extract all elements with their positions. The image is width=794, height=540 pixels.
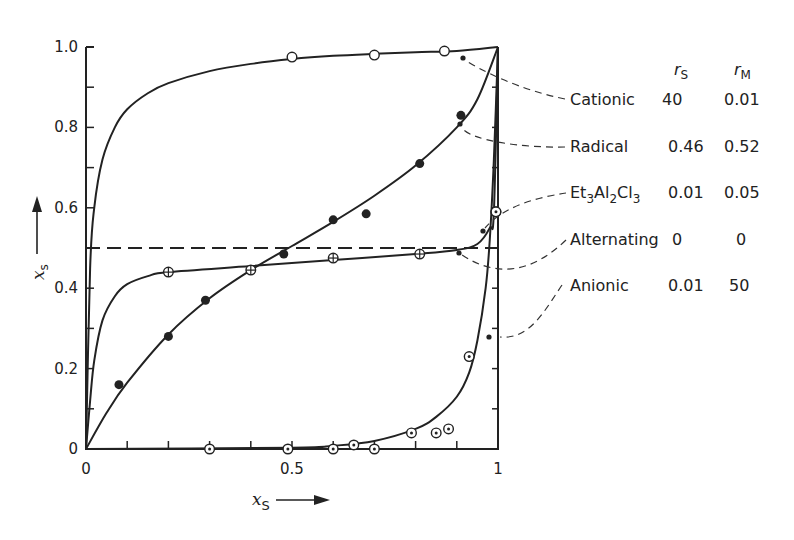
tick-marks [86, 87, 498, 449]
open-circle-marker [440, 46, 450, 56]
dot-circle-marker [407, 428, 417, 438]
tick-labels: 00.5100.20.40.60.81.0 [54, 38, 503, 478]
legend-rs-value: 0 [672, 230, 682, 249]
circle-plus-marker [415, 249, 425, 259]
x-tick-label: 0 [81, 460, 91, 478]
copolymer-composition-chart: 00.5100.20.40.60.81.0 rSrMCationic400.01… [0, 0, 794, 540]
leader-arrow-icon [460, 55, 465, 60]
filled-circle-marker [201, 296, 210, 305]
curve-anionic [86, 47, 498, 449]
legend-rm-value: 0.01 [724, 90, 760, 109]
curve-cationic [86, 47, 498, 449]
y-axis-label: xs [28, 196, 51, 280]
filled-circle-marker [329, 215, 338, 224]
leader-line-anionic [500, 285, 562, 337]
legend-rm-value: 0.52 [724, 137, 760, 156]
filled-circle-marker [362, 209, 371, 218]
legend-rm-value: 0 [736, 230, 746, 249]
x-axis-label: xS [252, 489, 330, 513]
dot-circle-marker [328, 444, 338, 454]
filled-circle-marker [279, 250, 288, 259]
dot-circle-marker [491, 207, 501, 217]
legend-label-anionic: Anionic [570, 276, 629, 295]
dot-circle-marker [349, 440, 359, 450]
legend-label-radical: Radical [570, 137, 628, 156]
circle-plus-marker [246, 265, 256, 275]
y-tick-label: 0.2 [54, 360, 78, 378]
dot-circle-marker [464, 352, 474, 362]
leader-line-radical [462, 128, 565, 147]
y-tick-label: 0.8 [54, 118, 78, 136]
legend-rs-value: 0.46 [668, 137, 704, 156]
dot-circle-marker [431, 428, 441, 438]
legend-label-cationic: Cationic [570, 90, 635, 109]
axis-frame [86, 47, 498, 449]
open-circle-marker [370, 50, 380, 60]
legend-rs-value: 40 [662, 90, 682, 109]
filled-circle-marker [164, 332, 173, 341]
y-axis-var: xs [28, 264, 51, 280]
y-tick-label: 0.6 [54, 199, 78, 217]
legend-leader-lines [456, 55, 566, 339]
legend-label-et3al2cl3: Et3Al2Cl3 [570, 183, 640, 206]
y-axis-arrow-icon [32, 196, 42, 212]
legend-header-rm: rM [734, 60, 751, 82]
filled-circle-marker [415, 159, 424, 168]
data-markers [114, 46, 500, 454]
y-tick-label: 1.0 [54, 38, 78, 56]
x-axis-arrow-icon [314, 495, 330, 505]
leader-arrow-icon [456, 250, 461, 255]
circle-plus-marker [328, 253, 338, 263]
curve-radical [86, 47, 498, 449]
leader-arrow-icon [457, 121, 462, 126]
circle-plus-marker [164, 267, 174, 277]
legend-table: rSrMCationic400.01Radical0.460.52Et3Al2C… [570, 60, 760, 295]
curve-et3al2cl3 [86, 47, 498, 449]
series-curves [86, 47, 498, 449]
y-tick-label: 0 [68, 440, 78, 458]
dot-circle-marker [370, 444, 380, 454]
x-tick-label: 0.5 [280, 460, 304, 478]
filled-circle-marker [114, 380, 123, 389]
legend-header-rs: rS [674, 60, 688, 82]
axes [86, 47, 498, 449]
x-tick-label: 1 [493, 460, 503, 478]
y-tick-label: 0.4 [54, 279, 78, 297]
filled-circle-marker [456, 111, 465, 120]
legend-rs-value: 0.01 [668, 183, 704, 202]
leader-arrow-icon [486, 334, 491, 339]
legend-rm-value: 0.05 [724, 183, 760, 202]
dot-circle-marker [205, 444, 215, 454]
legend-rm-value: 50 [729, 276, 749, 295]
dot-circle-marker [283, 444, 293, 454]
legend-label-alternating: Alternating [570, 230, 659, 249]
open-circle-marker [287, 52, 297, 62]
legend-rs-value: 0.01 [668, 276, 704, 295]
leader-arrow-icon [480, 228, 485, 233]
x-axis-var: xS [252, 489, 270, 513]
dot-circle-marker [444, 424, 454, 434]
